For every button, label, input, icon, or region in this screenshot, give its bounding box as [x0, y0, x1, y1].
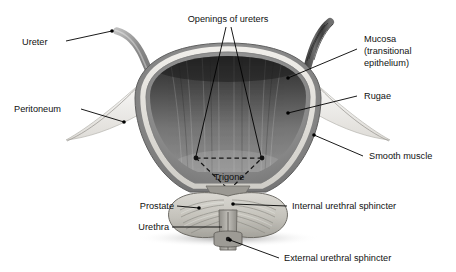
anatomy-illustration: Ureter Peritoneum Openings of ureters Mu… — [0, 0, 456, 272]
bladder-anatomy-figure: Ureter Peritoneum Openings of ureters Mu… — [0, 0, 456, 272]
label-peritoneum: Peritoneum — [14, 104, 61, 114]
label-mucosa-line2: (transitional — [364, 46, 412, 56]
label-smooth-muscle: Smooth muscle — [369, 151, 432, 161]
peritoneum-flap-left — [66, 78, 146, 141]
label-openings-of-ureters: Openings of ureters — [188, 14, 269, 24]
label-urethra: Urethra — [138, 222, 170, 232]
label-rugae: Rugae — [364, 91, 391, 101]
label-ureter: Ureter — [22, 37, 48, 47]
label-prostate: Prostate — [140, 201, 174, 211]
left-ureteric-opening — [194, 156, 199, 161]
label-mucosa-line3: epithelium) — [364, 58, 409, 68]
label-trigone: Trigone — [214, 172, 245, 182]
peritoneum-flap-right — [310, 78, 390, 141]
label-external-urethral-sphincter: External urethral sphincter — [284, 253, 391, 263]
label-internal-urethral-sphincter: Internal urethral sphincter — [292, 201, 396, 211]
label-mucosa-line1: Mucosa — [364, 34, 397, 44]
right-ureteric-opening — [260, 156, 265, 161]
